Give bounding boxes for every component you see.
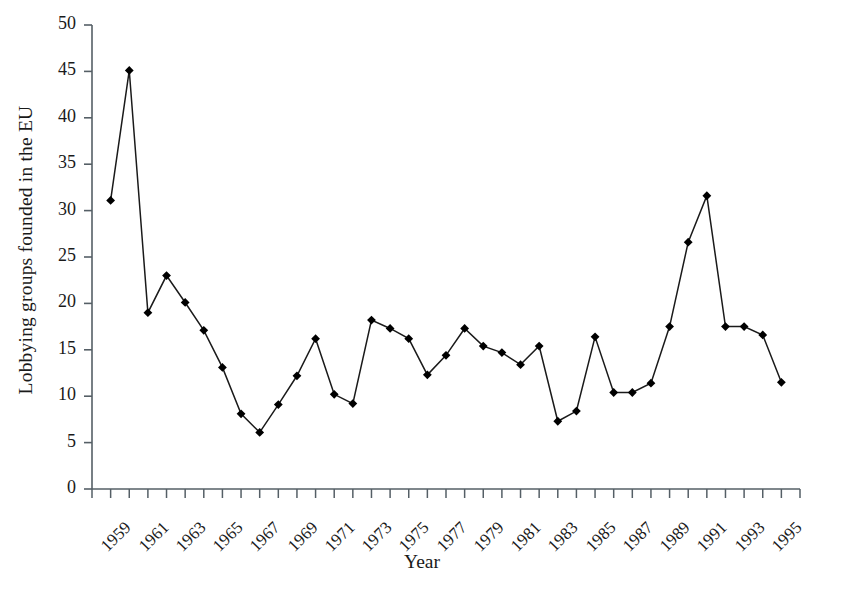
line-chart: Lobbying groups founded in the EU 051015… xyxy=(0,0,844,589)
data-point-marker xyxy=(125,66,134,75)
data-point-markers xyxy=(106,66,786,437)
y-tick-marks xyxy=(84,25,92,489)
data-point-marker xyxy=(740,322,749,331)
data-point-marker xyxy=(609,388,618,397)
x-axis-label: Year xyxy=(0,551,844,573)
data-point-marker xyxy=(181,298,190,307)
y-tick-label: 15 xyxy=(34,338,76,359)
data-point-marker xyxy=(330,390,339,399)
data-line xyxy=(111,70,782,432)
data-point-marker xyxy=(647,379,656,388)
data-point-marker xyxy=(293,371,302,380)
y-tick-label: 35 xyxy=(34,152,76,173)
data-point-marker xyxy=(106,196,115,205)
data-point-marker xyxy=(497,348,506,357)
data-point-marker xyxy=(348,399,357,408)
data-point-marker xyxy=(665,322,674,331)
data-point-marker xyxy=(591,332,600,341)
y-tick-label: 40 xyxy=(34,106,76,127)
data-point-marker xyxy=(758,331,767,340)
data-point-marker xyxy=(777,378,786,387)
data-point-marker xyxy=(162,271,171,280)
data-point-marker xyxy=(628,388,637,397)
data-point-marker xyxy=(367,316,376,325)
y-tick-label: 10 xyxy=(34,384,76,405)
y-tick-label: 45 xyxy=(34,59,76,80)
y-tick-label: 50 xyxy=(34,13,76,34)
data-point-marker xyxy=(553,417,562,426)
data-point-marker xyxy=(311,334,320,343)
y-tick-label: 25 xyxy=(34,245,76,266)
y-tick-label: 30 xyxy=(34,199,76,220)
data-point-marker xyxy=(386,324,395,333)
data-point-marker xyxy=(274,400,283,409)
data-point-marker xyxy=(218,363,227,372)
y-tick-label: 20 xyxy=(34,291,76,312)
x-tick-marks xyxy=(92,489,800,498)
y-tick-label: 0 xyxy=(34,477,76,498)
data-point-marker xyxy=(199,326,208,335)
y-tick-label: 5 xyxy=(34,431,76,452)
data-point-marker xyxy=(143,308,152,317)
data-point-marker xyxy=(404,334,413,343)
plot-area xyxy=(0,0,844,589)
data-point-marker xyxy=(702,191,711,200)
data-point-marker xyxy=(572,407,581,416)
data-point-marker xyxy=(721,322,730,331)
data-point-marker xyxy=(684,238,693,247)
